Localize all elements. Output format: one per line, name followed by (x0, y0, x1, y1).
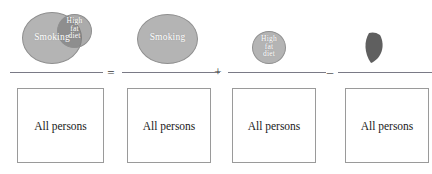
denominator-box-intersection: All persons (345, 88, 429, 163)
denominator-label-high-fat-diet: All persons (248, 120, 301, 132)
denominator-box-smoking: All persons (127, 88, 211, 163)
venn-fraction-equation-figure: Smoking High fat diet All persons = Smok… (0, 0, 432, 174)
numerator-smoking: Smoking (118, 0, 216, 72)
high-fat-diet-circle (57, 14, 92, 48)
smoking-circle (137, 14, 198, 64)
term-smoking: Smoking All persons (118, 0, 216, 174)
intersection-lens (363, 32, 387, 65)
denominator-label-union: All persons (34, 120, 87, 132)
fraction-bar-union (10, 72, 103, 73)
denominator-label-smoking: All persons (143, 120, 196, 132)
term-high-fat-diet: High fat diet All persons (226, 0, 328, 174)
fraction-bar-intersection (338, 72, 432, 73)
denominator-box-high-fat-diet: All persons (232, 88, 316, 163)
high-fat-diet-circle (252, 31, 286, 64)
fraction-bar-smoking (122, 72, 220, 73)
operator-equals: = (104, 66, 118, 79)
term-union: Smoking High fat diet All persons (0, 0, 108, 174)
denominator-box-union: All persons (17, 88, 104, 163)
operator-minus: – (323, 65, 337, 78)
operator-plus: + (211, 65, 225, 78)
numerator-intersection (336, 0, 432, 72)
term-intersection: All persons (336, 0, 432, 174)
fraction-bar-high-fat-diet (228, 72, 326, 73)
numerator-union: Smoking High fat diet (0, 0, 108, 72)
denominator-label-intersection: All persons (361, 120, 414, 132)
numerator-high-fat-diet: High fat diet (226, 0, 328, 72)
